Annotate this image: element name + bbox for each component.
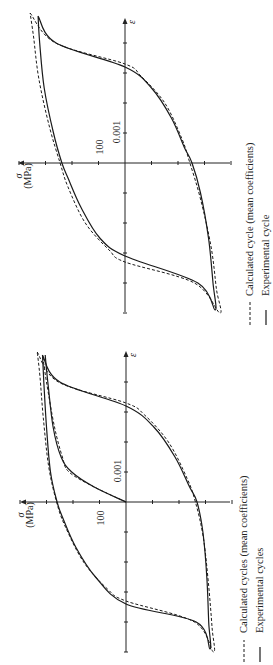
epsilon-axis: [123, 18, 128, 313]
chart-plot: σ (MPa) ε 100 0.001 Calculated cycles (m…: [0, 335, 273, 665]
legend-label-experimental: Experimental cycle: [260, 214, 271, 296]
legend-label-calculated: Calculated cycle (mean coefficients): [244, 142, 256, 296]
sigma-unit-label: (MPa): [22, 163, 34, 189]
legend-label-experimental: Experimental cycles: [254, 548, 265, 633]
epsilon-tick-label: 0.001: [111, 121, 122, 144]
chart-panel-multiple-cycles: σ (MPa) ε 100 0.001 Calculated cycles (m…: [0, 335, 273, 665]
legend: Calculated cycle (mean coefficients) Exp…: [244, 142, 271, 325]
sigma-tick-label: 100: [95, 511, 106, 526]
legend: Calculated cycles (mean coefficients) Ex…: [238, 475, 265, 662]
epsilon-axis-label: ε: [126, 20, 137, 24]
chart-plot: σ (MPa) ε 100 0.001 Calculated cycle (me…: [0, 0, 273, 330]
epsilon-tick-label: 0.001: [112, 460, 123, 483]
sigma-unit-label: (MPa): [24, 502, 36, 528]
legend-label-calculated: Calculated cycles (mean coefficients): [238, 475, 250, 633]
epsilon-axis-label: ε: [127, 353, 138, 357]
sigma-tick-label: 100: [94, 140, 105, 155]
chart-panel-single-cycle: σ (MPa) ε 100 0.001 Calculated cycle (me…: [0, 0, 273, 330]
